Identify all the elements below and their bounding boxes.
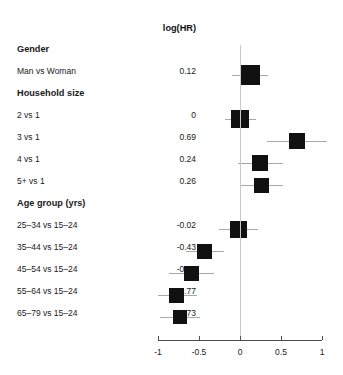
- point-estimate-box: [289, 133, 305, 149]
- point-estimate-box: [184, 266, 199, 281]
- row-label: 2 vs 1: [17, 110, 40, 120]
- point-estimate-box: [169, 288, 184, 303]
- x-axis-tick: [158, 336, 159, 340]
- point-estimate-box: [173, 310, 187, 324]
- row-label: 4 vs 1: [17, 154, 40, 164]
- x-axis-tick-label: -0.5: [179, 347, 219, 357]
- x-axis-tick-label: 0.5: [261, 347, 301, 357]
- x-axis-tick: [240, 336, 241, 340]
- row-label: 5+ vs 1: [17, 176, 45, 186]
- group-heading-gender: Gender: [17, 44, 49, 54]
- row-value: 0.12: [60, 66, 196, 76]
- column-header-log-hr: log(HR): [60, 23, 196, 33]
- x-axis-tick-label: 1: [302, 347, 342, 357]
- group-heading-age-group-yrs: Age group (yrs): [17, 198, 85, 208]
- reference-line-zero: [240, 45, 241, 340]
- point-estimate-box: [197, 244, 212, 259]
- point-estimate-box: [252, 155, 268, 171]
- point-estimate-box: [254, 178, 269, 193]
- row-value: 0.26: [60, 176, 196, 186]
- row-label: 3 vs 1: [17, 132, 40, 142]
- row-value: 0: [60, 110, 196, 120]
- x-axis-tick-label: -1: [138, 347, 178, 357]
- x-axis-tick: [199, 336, 200, 340]
- x-axis-tick-label: 0: [220, 347, 260, 357]
- point-estimate-box: [240, 65, 260, 85]
- x-axis-tick: [281, 336, 282, 340]
- x-axis-line: [158, 340, 322, 341]
- group-heading-household-size: Household size: [17, 88, 84, 98]
- forest-plot: log(HR)GenderMan vs Woman0.12Household s…: [0, 0, 343, 375]
- row-value: -0.02: [60, 220, 196, 230]
- x-axis-tick: [322, 336, 323, 340]
- row-value: 0.69: [60, 132, 196, 142]
- point-estimate-box: [230, 221, 247, 238]
- row-value: 0.24: [60, 154, 196, 164]
- row-value: -0.43: [60, 242, 196, 252]
